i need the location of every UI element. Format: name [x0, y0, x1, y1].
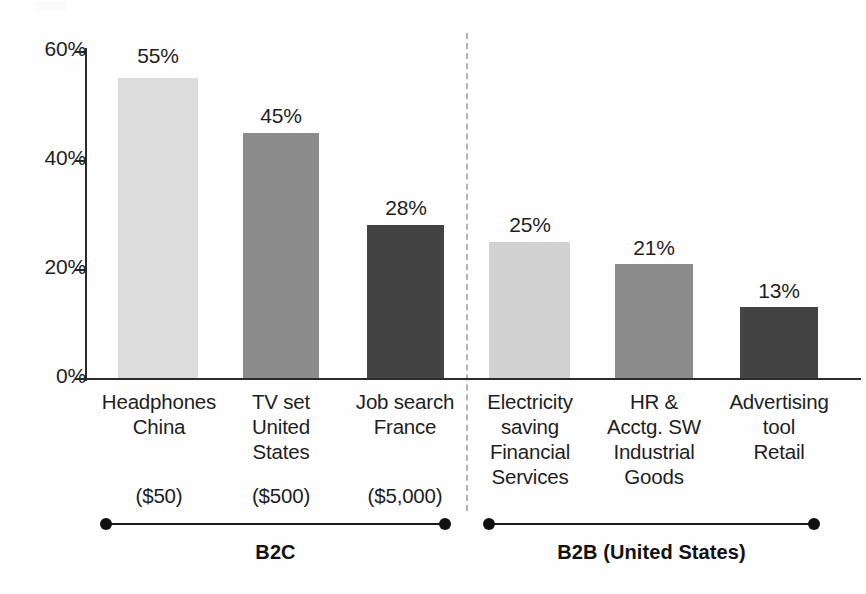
category-label-1: TV set United States [221, 389, 341, 464]
bar-value-label-3: 25% [480, 213, 580, 237]
category-line: United [221, 414, 341, 439]
category-line: Goods [594, 464, 714, 489]
category-label-3: Electricity saving Financial Services [469, 389, 591, 489]
category-price-1: ($500) [221, 484, 341, 508]
category-line: Industrial [594, 439, 714, 464]
bracket-dot-right [439, 518, 451, 530]
group-bracket-b2b [484, 518, 819, 530]
bar-value-label-1: 45% [231, 104, 331, 128]
category-line: Headphones [94, 389, 224, 414]
bracket-dot-right [808, 518, 820, 530]
category-line: saving [469, 414, 591, 439]
bracket-line [101, 523, 450, 525]
category-line: Financial [469, 439, 591, 464]
category-line: Advertising [716, 389, 842, 414]
category-line: Electricity [469, 389, 591, 414]
category-line: Services [469, 464, 591, 489]
group-bracket-b2c [101, 518, 450, 530]
category-label-2: Job search France [343, 389, 467, 439]
group-label-b2b: B2B (United States) [484, 541, 819, 564]
bar-advertising-tool-retail[interactable] [740, 307, 818, 378]
category-price-2: ($5,000) [343, 484, 467, 508]
category-line: France [343, 414, 467, 439]
category-line: Job search [343, 389, 467, 414]
section-divider [466, 33, 468, 511]
category-line: States [221, 439, 341, 464]
category-label-4: HR & Acctg. SW Industrial Goods [594, 389, 714, 489]
category-line: Acctg. SW [594, 414, 714, 439]
category-line: Retail [716, 439, 842, 464]
bar-chart: 0% 20% 40% 60% 55% 45% 28% 25% 21% 13% H… [0, 0, 866, 594]
category-label-0: Headphones China [94, 389, 224, 439]
category-line: tool [716, 414, 842, 439]
bar-value-label-2: 28% [356, 196, 456, 220]
bar-value-label-5: 13% [729, 279, 829, 303]
category-price-0: ($50) [94, 484, 224, 508]
bar-hr-acctg-sw-industrial-goods[interactable] [615, 264, 693, 378]
y-axis-tick-0: 0% [0, 378, 86, 380]
bracket-line [484, 523, 819, 525]
category-line: China [94, 414, 224, 439]
bar-electricity-saving-financial-services[interactable] [489, 242, 570, 378]
bar-job-search-france[interactable] [367, 225, 444, 378]
category-line: TV set [221, 389, 341, 414]
bar-value-label-0: 55% [108, 44, 208, 68]
bar-value-label-4: 21% [604, 236, 704, 260]
category-line: HR & [594, 389, 714, 414]
bracket-dot-left [100, 518, 112, 530]
bar-headphones-china[interactable] [118, 78, 198, 378]
group-label-b2c: B2C [101, 541, 450, 564]
category-label-5: Advertising tool Retail [716, 389, 842, 464]
bracket-dot-left [483, 518, 495, 530]
bar-tv-set-united-states[interactable] [243, 133, 319, 378]
x-axis-line [85, 378, 861, 380]
